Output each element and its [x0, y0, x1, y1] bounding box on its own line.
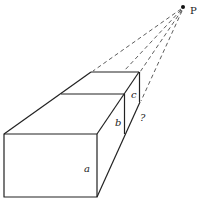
box: [4, 72, 140, 197]
label-unknown: ?: [140, 112, 146, 123]
vanishing-lines: [93, 9, 182, 101]
label-b: b: [115, 117, 121, 128]
label-a: a: [84, 163, 90, 174]
dashed-line-4: [141, 11, 182, 101]
top-left-edge: [4, 72, 91, 134]
dashed-line-3: [140, 10, 182, 72]
label-c: c: [131, 89, 137, 100]
point-p-marker: [181, 5, 185, 9]
point-p-label: P: [190, 5, 197, 16]
dashed-line-1: [93, 9, 181, 71]
dashed-line-2: [124, 10, 181, 71]
perspective-diagram: P a b c ?: [0, 0, 200, 206]
